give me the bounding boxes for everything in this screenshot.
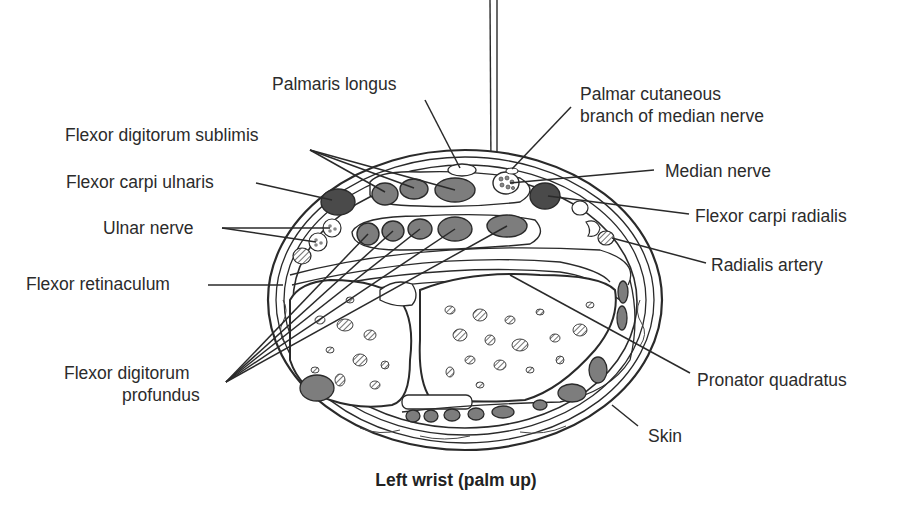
wrist-cross-section-diagram	[0, 0, 912, 505]
label-flexor-carpi-radialis: Flexor carpi radialis	[695, 206, 847, 226]
label-flexor-carpi-ulnaris: Flexor carpi ulnaris	[66, 172, 214, 192]
flexor-carpi-ulnaris	[321, 189, 355, 215]
label-radialis-artery: Radialis artery	[711, 255, 823, 275]
label-flexor-digitorum-profundus-line1: Flexor digitorum	[64, 363, 189, 383]
label-ulnar-nerve: Ulnar nerve	[103, 218, 193, 238]
label-median-nerve: Median nerve	[665, 161, 771, 181]
radialis-artery	[598, 231, 614, 245]
label-palmaris-longus: Palmaris longus	[272, 74, 397, 94]
label-palmar-cutaneous-line1: Palmar cutaneous	[580, 84, 721, 104]
label-flexor-digitorum-sublimis: Flexor digitorum sublimis	[65, 125, 259, 145]
needle	[490, 0, 497, 170]
flexor-carpi-radialis	[530, 183, 560, 209]
label-palmar-cutaneous-line2: branch of median nerve	[580, 106, 764, 126]
flexor-digitorum-profundus	[352, 215, 540, 250]
figure-caption: Left wrist (palm up)	[0, 470, 912, 491]
label-flexor-digitorum-profundus-line2: profundus	[122, 385, 200, 405]
label-flexor-retinaculum: Flexor retinaculum	[26, 274, 170, 294]
label-skin: Skin	[648, 426, 682, 446]
palmaris-longus	[448, 164, 476, 176]
label-pronator-quadratus: Pronator quadratus	[697, 370, 847, 390]
